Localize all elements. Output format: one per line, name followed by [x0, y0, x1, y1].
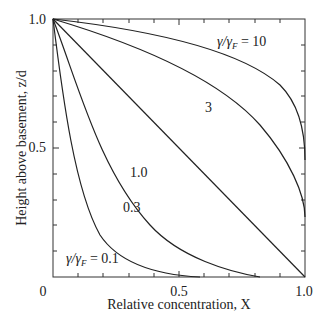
x-tick-1: 1.0	[295, 284, 313, 299]
label-03: 0.3	[123, 200, 141, 215]
y-tick-1: 1.0	[29, 12, 47, 27]
label-10: γ/γF = 10	[217, 34, 266, 51]
y-tick-05: 0.5	[29, 140, 47, 155]
x-tick-0: 0	[40, 284, 47, 299]
label-01: γ/γF = 0.1	[66, 251, 119, 268]
curve-03	[53, 19, 260, 277]
chart: 1.0 0.5 0 0.5 1.0 Relative concentration…	[0, 0, 324, 321]
curve-01	[53, 19, 200, 277]
y-axis-label: Height above basement, z/d	[14, 70, 29, 226]
curve-1	[53, 19, 305, 277]
label-3: 3	[205, 100, 212, 115]
curve-10	[53, 19, 305, 160]
label-1: 1.0	[130, 165, 148, 180]
x-axis-label: Relative concentration, X	[107, 297, 250, 312]
curve-3	[53, 19, 305, 217]
curves	[53, 19, 305, 277]
